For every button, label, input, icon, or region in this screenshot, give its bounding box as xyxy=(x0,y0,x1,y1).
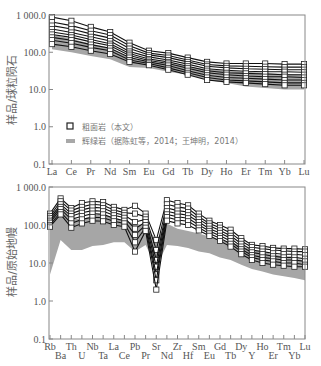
y-axis-ticks: 0.11.010.0100.01 000.0 xyxy=(16,10,53,170)
x-tick-label: U xyxy=(78,350,86,361)
data-point xyxy=(101,219,106,224)
x-tick-label: Y xyxy=(248,350,255,361)
x-tick-label: Sm xyxy=(123,166,137,177)
x-tick-label: Pb xyxy=(130,341,141,352)
x-tick-label: Er xyxy=(241,166,251,177)
x-tick-label: Nd xyxy=(104,166,116,177)
y-tick-label: 100.0 xyxy=(24,47,47,58)
legend-label-trachyte: 粗面岩（本文） xyxy=(82,122,138,132)
legend-marker-trachyte xyxy=(67,123,73,129)
data-point xyxy=(249,257,254,262)
data-point xyxy=(228,244,233,249)
data-point xyxy=(69,44,74,49)
data-point xyxy=(207,233,212,238)
data-point xyxy=(111,222,116,227)
y-axis-title: 样品/球粒陨石 xyxy=(5,55,19,125)
x-tick-label: Ta xyxy=(98,350,108,361)
data-point xyxy=(196,228,201,233)
x-tick-label: La xyxy=(47,166,58,177)
data-point xyxy=(49,42,54,47)
y-axis-title: 样品/原始地幔 xyxy=(5,227,19,297)
data-point xyxy=(205,77,210,82)
x-tick-label: Ho xyxy=(220,166,232,177)
data-point xyxy=(122,224,127,229)
data-point xyxy=(239,252,244,257)
legend: 粗面岩（本文） 辉绿岩（据陈虹等，2014；王坤明，2014） xyxy=(66,122,243,147)
y-tick-label: 1 000.0 xyxy=(16,10,46,21)
x-tick-label: Gd xyxy=(162,166,174,177)
legend-label-diabase: 辉绿岩（据陈虹等，2014；王坤明，2014） xyxy=(82,136,243,146)
x-tick-label: Tm xyxy=(258,166,272,177)
x-axis-ticks: LaCePrNdSmEuGdTbDyHoErTmYbLu xyxy=(47,160,310,177)
data-point xyxy=(292,264,297,269)
data-point xyxy=(263,82,268,87)
data-point xyxy=(132,249,137,254)
y-tick-label: 1.0 xyxy=(34,121,47,132)
x-tick-label: Ho xyxy=(256,341,268,352)
data-point xyxy=(69,225,74,230)
y-tick-label: 10.0 xyxy=(29,84,47,95)
ree-chondrite-panel: 0.11.010.0100.01 000.0 LaCePrNdSmEuGdTbD… xyxy=(5,10,310,178)
x-tick-label: Dy xyxy=(201,166,213,177)
x-tick-label: Nd xyxy=(161,350,173,361)
x-tick-label: Dy xyxy=(235,341,247,352)
y-tick-label: 1.0 xyxy=(34,296,47,307)
data-point xyxy=(186,222,191,227)
y-tick-label: 100.0 xyxy=(24,220,47,231)
data-point xyxy=(164,218,169,223)
legend-marker-diabase xyxy=(66,139,75,143)
x-tick-label: Tb xyxy=(182,166,193,177)
x-tick-label: Lu xyxy=(299,341,310,352)
data-point xyxy=(166,67,171,72)
data-point xyxy=(127,59,132,64)
y-tick-label: 10.0 xyxy=(29,258,47,269)
data-point xyxy=(260,260,265,265)
data-point xyxy=(175,221,180,226)
y-axis-ticks: 0.11.010.0100.01 000.0 xyxy=(16,182,53,345)
data-point xyxy=(132,226,137,231)
data-point xyxy=(90,218,95,223)
x-tick-label: Th xyxy=(66,341,77,352)
spider-primitive-mantle-panel: 0.11.010.0100.01 000.0 RbBaThUNbTaLaCePb… xyxy=(5,182,311,362)
data-point xyxy=(271,262,276,267)
x-tick-label: Pr xyxy=(86,166,96,177)
data-point xyxy=(282,83,287,88)
x-tick-label: Zr xyxy=(173,341,183,352)
spider-diagrams: 0.11.010.0100.01 000.0 LaCePrNdSmEuGdTbD… xyxy=(0,0,321,366)
trachyte-series xyxy=(49,15,306,88)
data-point xyxy=(132,240,137,245)
x-tick-label: Nb xyxy=(86,341,98,352)
data-point xyxy=(224,79,229,84)
data-point xyxy=(281,263,286,268)
data-point xyxy=(132,203,137,208)
data-point xyxy=(146,63,151,68)
data-point xyxy=(217,238,222,243)
x-tick-label: Yb xyxy=(278,166,290,177)
data-point xyxy=(243,80,248,85)
x-tick-label: Eu xyxy=(143,166,154,177)
data-point xyxy=(132,211,137,216)
x-tick-label: Pr xyxy=(141,350,151,361)
data-point xyxy=(79,221,84,226)
x-tick-label: Lu xyxy=(298,166,309,177)
data-point xyxy=(58,212,63,217)
data-point xyxy=(132,232,137,237)
x-tick-label: Ce xyxy=(66,166,78,177)
data-point xyxy=(301,83,306,88)
data-point xyxy=(88,48,93,53)
data-point xyxy=(132,219,137,224)
data-point xyxy=(143,228,148,233)
data-point xyxy=(154,287,159,292)
data-point xyxy=(185,72,190,77)
y-tick-label: 0.1 xyxy=(34,159,47,170)
data-point xyxy=(108,51,113,56)
y-tick-label: 1 000.0 xyxy=(16,182,46,193)
